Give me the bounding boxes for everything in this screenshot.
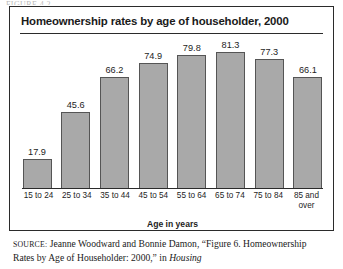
bar-value-label: 66.2 [105,66,123,75]
bar-item: 66.2 [99,37,129,189]
bar-rect [61,112,90,189]
figure-frame: Homeownership rates by age of householde… [9,6,334,231]
bar-value-label: 77.3 [260,48,278,57]
bar-item: 77.3 [254,37,284,189]
bar-item: 79.8 [177,37,207,189]
x-axis-tick-label: 65 to 74 [213,191,246,210]
bar-value-label: 17.9 [28,148,46,157]
bar-value-label: 74.9 [144,52,162,61]
title-divider [20,33,323,34]
bar-rect [293,77,322,189]
bar-rect [177,55,206,189]
bar-value-label: 79.8 [183,44,201,53]
bar-value-label: 45.6 [67,101,85,110]
x-axis-tick-label: 25 to 34 [60,191,93,210]
bar-rect [23,159,52,189]
bar-series: 17.9 45.6 66.2 74.9 79.8 81.3 [22,37,323,189]
x-axis-title: Age in years [10,219,335,229]
bar-item: 81.3 [216,37,246,189]
bar-rect [255,59,284,189]
clipped-header-text: FIGURE 4.2 [6,0,126,5]
x-axis-tick-label: 75 to 84 [252,191,285,210]
x-axis-tick-label: 35 to 44 [99,191,132,210]
bar-item: 74.9 [138,37,168,189]
bar-item: 45.6 [61,37,91,189]
chart-title: Homeownership rates by age of householde… [21,15,289,27]
x-axis-line [22,188,323,189]
x-axis-tick-label: 15 to 24 [22,191,55,210]
x-axis-tick-label: 45 to 54 [137,191,170,210]
bar-rect [216,52,245,189]
bar-rect [100,77,129,189]
bar-rect [139,63,168,189]
source-label: SOURCE: [13,240,47,249]
bar-item: 17.9 [22,37,52,189]
bar-value-label: 66.1 [299,66,317,75]
x-axis-tick-label: 55 to 64 [175,191,208,210]
x-axis-tick-label: 85 and over [290,191,323,210]
source-line-1: Jeanne Woodward and Bonnie Damon, “Figur… [47,238,240,249]
plot-area: 17.9 45.6 66.2 74.9 79.8 81.3 [22,37,323,189]
x-axis-category-labels: 15 to 24 25 to 34 35 to 44 45 to 54 55 t… [22,191,323,210]
bar-value-label: 81.3 [222,41,240,50]
source-publication-title: Housing [169,252,202,263]
bar-item: 66.1 [293,37,323,189]
source-note: SOURCE: Jeanne Woodward and Bonnie Damon… [13,238,325,264]
